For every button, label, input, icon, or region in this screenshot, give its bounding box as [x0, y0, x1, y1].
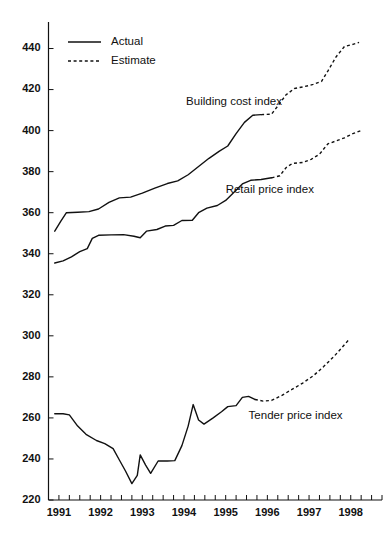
- y-tick-label: 360: [22, 206, 40, 218]
- y-tick-label: 260: [22, 411, 40, 423]
- x-tick-label: 1995: [213, 506, 237, 518]
- series-label: Building cost index: [186, 95, 282, 107]
- x-axis-ticks: [49, 495, 383, 500]
- series-tender-price-index-actual: [55, 396, 255, 483]
- series-label: Retail price index: [226, 183, 314, 195]
- chart-legend: ActualEstimate: [68, 35, 156, 66]
- legend-label: Actual: [111, 35, 143, 47]
- series-building-cost-index-actual: [55, 115, 261, 232]
- legend-label: Estimate: [111, 54, 156, 66]
- x-tick-label: 1994: [172, 506, 197, 518]
- chart-container: 220240260280300320340360380400420440 199…: [0, 0, 391, 544]
- y-tick-label: 320: [22, 288, 40, 300]
- y-tick-label: 300: [22, 329, 40, 341]
- y-tick-label: 220: [22, 493, 40, 505]
- series-retail-price-index-estimate: [272, 131, 362, 178]
- line-chart: 220240260280300320340360380400420440 199…: [0, 0, 391, 544]
- y-tick-label: 380: [22, 165, 40, 177]
- x-axis-tick-labels: 19911992199319941995199619971998: [47, 506, 363, 518]
- y-tick-label: 420: [22, 82, 40, 94]
- x-tick-label: 1998: [338, 506, 362, 518]
- y-tick-label: 240: [22, 452, 40, 464]
- y-tick-label: 340: [22, 247, 40, 259]
- series-tender-price-index-estimate: [255, 340, 349, 401]
- x-tick-label: 1997: [297, 506, 321, 518]
- x-tick-label: 1993: [130, 506, 154, 518]
- series-annotations: Building cost indexRetail price indexTen…: [186, 95, 343, 421]
- y-tick-label: 280: [22, 370, 40, 382]
- y-axis-ticks: [49, 49, 54, 500]
- x-tick-label: 1991: [47, 506, 71, 518]
- x-tick-label: 1996: [255, 506, 279, 518]
- series-label: Tender price index: [249, 409, 343, 421]
- y-tick-label: 440: [22, 41, 40, 53]
- x-tick-label: 1992: [88, 506, 112, 518]
- y-tick-label: 400: [22, 124, 40, 136]
- y-axis-tick-labels: 220240260280300320340360380400420440: [22, 41, 40, 504]
